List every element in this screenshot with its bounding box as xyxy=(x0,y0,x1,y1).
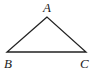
vertex-label-c: C xyxy=(80,56,89,71)
vertex-label-b: B xyxy=(4,56,12,71)
triangle-diagram: A B C xyxy=(0,0,96,74)
vertex-label-a: A xyxy=(42,0,51,15)
triangle-abc xyxy=(7,17,86,52)
